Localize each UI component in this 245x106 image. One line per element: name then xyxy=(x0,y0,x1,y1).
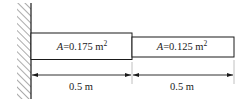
segment-2-area-label: A=0.125 m2 xyxy=(156,39,208,52)
wall-hatch xyxy=(17,3,31,99)
segment-1-length-label: 0.5 m xyxy=(69,81,93,92)
stepped-bar-diagram: A=0.175 m2 A=0.125 m2 0.5 m 0.5 m xyxy=(0,0,245,106)
segment-2-length-label: 0.5 m xyxy=(170,81,194,92)
fixed-wall xyxy=(17,3,31,99)
segment-1-area-label: A=0.175 m2 xyxy=(56,39,108,52)
